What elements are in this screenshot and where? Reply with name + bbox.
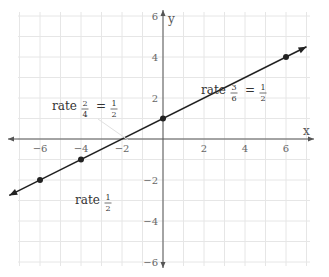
x-tick-label: −6 [33, 143, 48, 154]
rate-annotation: rate24=12 [52, 99, 118, 119]
svg-text:rate: rate [201, 83, 226, 97]
data-line [9, 47, 306, 196]
y-axis-label: y [167, 12, 175, 26]
svg-text:2: 2 [260, 94, 265, 103]
y-axis-arrow-up-icon [161, 10, 166, 16]
x-tick-label: 2 [201, 143, 207, 154]
y-tick-label: 6 [152, 11, 158, 22]
data-point [37, 177, 43, 183]
svg-text:2: 2 [82, 99, 87, 108]
svg-text:6: 6 [231, 94, 236, 103]
x-tick-label: −4 [74, 143, 89, 154]
y-tick-label: 2 [152, 93, 158, 104]
rate-annotation: rate36=12 [201, 83, 267, 103]
y-tick-label: −6 [143, 257, 158, 268]
x-tick-label: −2 [115, 143, 130, 154]
x-axis-arrow-left-icon [8, 137, 14, 142]
svg-text:rate: rate [52, 99, 77, 113]
svg-text:1: 1 [111, 99, 116, 108]
data-point [160, 116, 166, 122]
x-axis-label: x [303, 124, 310, 138]
svg-text:rate: rate [75, 193, 100, 207]
axes: xy [8, 10, 314, 268]
x-tick-label: 6 [283, 143, 289, 154]
svg-text:1: 1 [260, 83, 265, 92]
y-tick-label: −2 [143, 175, 158, 186]
rate-annotation: rate12 [75, 193, 112, 213]
line-arrow-left-icon [9, 189, 18, 195]
svg-text:2: 2 [111, 110, 116, 119]
svg-text:=: = [245, 83, 255, 97]
x-tick-label: 4 [242, 143, 248, 154]
svg-text:1: 1 [105, 193, 110, 202]
svg-text:3: 3 [231, 83, 236, 92]
svg-text:2: 2 [105, 204, 110, 213]
svg-text:4: 4 [82, 110, 87, 119]
y-axis-arrow-down-icon [161, 262, 166, 268]
y-tick-label: 4 [152, 52, 158, 63]
svg-text:=: = [96, 99, 106, 113]
y-tick-label: −4 [143, 216, 158, 227]
data-point [78, 157, 84, 163]
data-point [283, 54, 289, 60]
coordinate-plane-chart: xy −6−4−2246642−2−4−6 rate24=12rate36=12… [0, 0, 329, 277]
line-arrow-right-icon [298, 47, 307, 53]
